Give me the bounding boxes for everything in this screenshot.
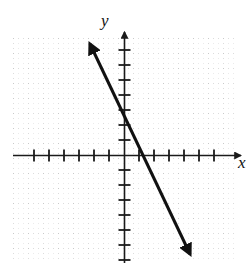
graph-canvas bbox=[0, 0, 247, 263]
x-axis-label: x bbox=[238, 154, 246, 171]
y-axis-label: y bbox=[101, 12, 109, 29]
coordinate-plane-figure: y x bbox=[0, 0, 247, 263]
